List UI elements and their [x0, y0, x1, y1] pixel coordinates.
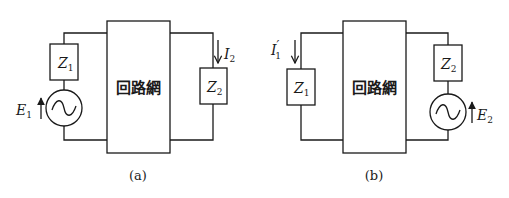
caption-b: (b): [365, 168, 383, 183]
ac-source-icon: [46, 90, 82, 126]
circuit-a: 回路網 Z1 E1 Z2 I2 (a): [15, 21, 235, 183]
network-label-b: 回路網: [352, 79, 397, 97]
circuit-b: 回路網 Z1 I′1 Z2 E2 (b): [270, 21, 493, 183]
network-label-a: 回路網: [116, 79, 161, 97]
source-label-e2: E2: [476, 107, 493, 125]
current-label-i1-prime: I′1: [270, 39, 281, 61]
ac-source-icon: [430, 94, 466, 130]
source-label-e1: E1: [15, 102, 32, 120]
current-label-i2: I2: [223, 46, 235, 64]
reciprocity-circuit-figure: 回路網 Z1 E1 Z2 I2 (a) 回路網: [0, 0, 509, 198]
caption-a: (a): [129, 168, 147, 183]
